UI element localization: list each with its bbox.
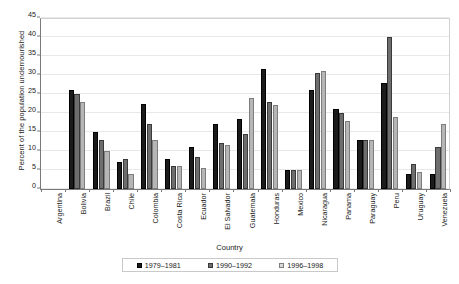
y-tick-mark xyxy=(37,74,40,75)
x-tick-mark xyxy=(450,189,451,192)
bar xyxy=(291,170,296,189)
x-tick-label: El Salvador xyxy=(224,193,232,230)
bar-group xyxy=(354,18,378,189)
bar xyxy=(128,174,133,189)
x-tick-mark xyxy=(402,189,403,192)
bar xyxy=(171,166,176,189)
bar xyxy=(237,119,242,189)
bar xyxy=(104,151,109,189)
x-tick-label: Brazil xyxy=(104,193,112,211)
bar-group xyxy=(89,18,113,189)
legend-label: 1979–1981 xyxy=(145,261,181,270)
y-tick-label: 35 xyxy=(28,49,36,56)
bars-layer xyxy=(41,18,450,189)
bar xyxy=(80,102,85,189)
bar xyxy=(219,143,224,189)
legend-swatch-icon xyxy=(208,263,213,268)
bar xyxy=(195,157,200,189)
x-tick-label: Uruguay xyxy=(417,193,425,220)
bar xyxy=(267,102,272,189)
x-tick-mark xyxy=(89,189,90,192)
y-axis-ticks: 051015202530354045 xyxy=(0,18,40,189)
y-tick-mark xyxy=(37,188,40,189)
y-tick-label: 0 xyxy=(32,182,36,189)
bar xyxy=(321,71,326,189)
y-tick-mark xyxy=(37,169,40,170)
bar xyxy=(243,134,248,189)
bar xyxy=(369,140,374,189)
x-tick-label: Ecuador xyxy=(200,193,208,220)
x-tick-mark xyxy=(306,189,307,192)
x-tick-mark xyxy=(354,189,355,192)
x-axis-labels: ArgentinaBoliviaBrazilChileColombiaCosta… xyxy=(41,193,450,241)
bar xyxy=(99,140,104,189)
bar xyxy=(69,90,74,189)
bar xyxy=(411,164,416,189)
bar-group xyxy=(426,18,450,189)
bar xyxy=(285,170,290,189)
x-tick-mark xyxy=(233,189,234,192)
bar xyxy=(430,174,435,189)
x-tick-label: Argentina xyxy=(56,193,64,224)
y-tick-label: 30 xyxy=(28,68,36,75)
x-tick-label: Costa Rica xyxy=(176,193,184,228)
x-tick-label: Honduras xyxy=(273,193,281,224)
legend-swatch-icon xyxy=(279,263,284,268)
x-tick-mark xyxy=(330,189,331,192)
bar xyxy=(225,145,230,189)
y-tick-label: 5 xyxy=(32,163,36,170)
bar xyxy=(273,105,278,189)
legend-label: 1996–1998 xyxy=(287,261,323,270)
bar-group xyxy=(330,18,354,189)
legend-item[interactable]: 1990–1992 xyxy=(208,261,252,270)
x-tick-label: Paraguay xyxy=(369,193,377,224)
y-tick-mark xyxy=(37,36,40,37)
chart-legend: 1979–19811990–19921996–1998 xyxy=(122,258,338,272)
bar xyxy=(441,124,446,189)
x-tick-mark xyxy=(41,189,42,192)
legend-swatch-icon xyxy=(137,263,142,268)
y-tick-mark xyxy=(37,17,40,18)
bar xyxy=(297,170,302,189)
bar xyxy=(152,140,157,189)
bar xyxy=(189,147,194,189)
y-tick-label: 15 xyxy=(28,125,36,132)
legend-item[interactable]: 1996–1998 xyxy=(279,261,323,270)
x-tick-label: Venezuela xyxy=(441,193,449,227)
bar-chart: Percent of the population undernourished… xyxy=(0,0,459,284)
bar-group xyxy=(137,18,161,189)
legend-item[interactable]: 1979–1981 xyxy=(137,261,181,270)
y-tick-label: 20 xyxy=(28,106,36,113)
x-tick-mark xyxy=(282,189,283,192)
x-tick-mark xyxy=(209,189,210,192)
bar xyxy=(357,140,362,189)
bar xyxy=(74,94,79,189)
bar xyxy=(406,174,411,189)
bar-group xyxy=(113,18,137,189)
x-tick-mark xyxy=(185,189,186,192)
y-tick-mark xyxy=(37,55,40,56)
x-tick-label: Chile xyxy=(128,193,136,209)
bar-group xyxy=(233,18,257,189)
bar-group xyxy=(306,18,330,189)
bar-group xyxy=(209,18,233,189)
bar xyxy=(381,83,386,189)
y-tick-label: 10 xyxy=(28,144,36,151)
bar xyxy=(201,168,206,189)
bar-group xyxy=(185,18,209,189)
y-tick-label: 45 xyxy=(28,11,36,18)
bar xyxy=(315,73,320,189)
x-tick-mark xyxy=(378,189,379,192)
bar xyxy=(261,69,266,189)
bar xyxy=(393,117,398,189)
bar-group xyxy=(258,18,282,189)
x-tick-mark xyxy=(137,189,138,192)
bar xyxy=(141,104,146,190)
y-tick-mark xyxy=(37,150,40,151)
bar xyxy=(249,98,254,189)
y-tick-mark xyxy=(37,131,40,132)
bar-group xyxy=(402,18,426,189)
y-tick-label: 40 xyxy=(28,30,36,37)
x-tick-label: Panama xyxy=(345,193,353,220)
bar-group xyxy=(65,18,89,189)
